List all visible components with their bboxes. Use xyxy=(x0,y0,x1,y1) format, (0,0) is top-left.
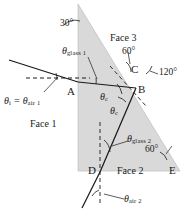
theta-c-lower-subscript: c xyxy=(115,109,118,116)
label-theta-c-upper: θc xyxy=(100,92,108,103)
leader-120 xyxy=(150,71,158,74)
theta-glass-1-subscript: glass 1 xyxy=(67,49,86,56)
leader-theta-air2 xyxy=(104,194,124,199)
arc-theta-air2 xyxy=(92,190,99,196)
exit-ray-at-d xyxy=(82,172,100,208)
angle-exterior-120: 120° xyxy=(159,68,177,78)
theta-air-1-subscript: air 1 xyxy=(28,99,41,106)
arc-120 xyxy=(146,66,152,74)
label-theta-air-2: θair 2 xyxy=(124,194,142,205)
incident-ray xyxy=(9,60,78,82)
angle-face2-60: 60° xyxy=(145,145,158,155)
label-face-1: Face 1 xyxy=(30,119,56,129)
angle-face3-60: 60° xyxy=(122,47,135,57)
diagram-canvas xyxy=(0,0,186,220)
label-theta-incident: θi = θair 1 xyxy=(4,96,40,107)
label-face-2: Face 2 xyxy=(117,166,143,176)
vertex-label-c: C xyxy=(131,64,138,75)
label-theta-c-lower: θc xyxy=(110,106,118,117)
theta-c-upper-subscript: c xyxy=(105,95,108,102)
vertex-label-a: A xyxy=(67,86,75,97)
label-theta-glass-1: θglass 1 xyxy=(62,46,86,57)
vertex-label-d: D xyxy=(88,165,96,176)
vertex-label-e: E xyxy=(169,165,176,176)
leader-theta-i xyxy=(44,77,58,92)
theta-air-2-subscript: air 2 xyxy=(129,197,142,204)
angle-apex-30: 30° xyxy=(60,19,73,29)
label-face-3: Face 3 xyxy=(110,33,136,43)
vertex-label-b: B xyxy=(138,84,145,95)
optics-ray-diagram: 30° Face 3 θglass 1 60° C 120° B A θi = … xyxy=(0,0,186,220)
